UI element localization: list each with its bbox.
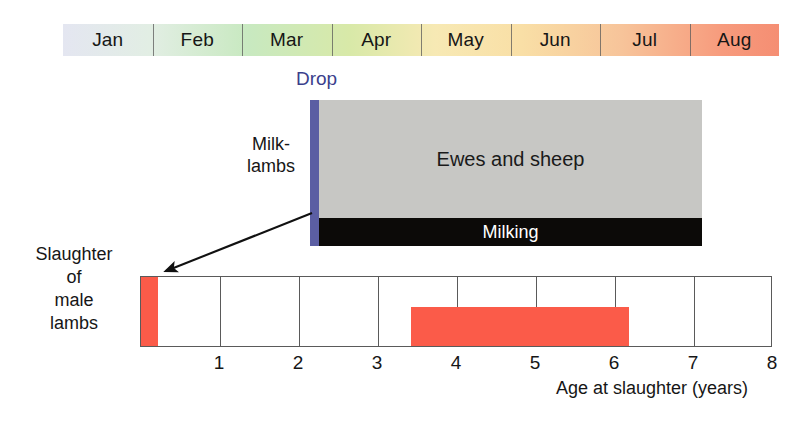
month-cell-jul: Jul bbox=[600, 24, 690, 56]
slaughter-label-line4: lambs bbox=[16, 312, 132, 335]
lifecycle-block-group: Ewes and sheep Milking bbox=[310, 100, 702, 246]
milk-lambs-label-line1: Milk- bbox=[238, 133, 304, 155]
x-tick-2: 2 bbox=[293, 352, 304, 374]
month-timeline-bar: Jan Feb Mar Apr May Jun Jul Aug bbox=[63, 24, 779, 56]
drop-label: Drop bbox=[296, 68, 337, 90]
month-label: Jul bbox=[632, 29, 657, 51]
ewes-and-sheep-block: Ewes and sheep bbox=[319, 100, 702, 218]
milking-block: Milking bbox=[319, 218, 702, 246]
x-tick-6: 6 bbox=[609, 352, 620, 374]
month-cell-feb: Feb bbox=[153, 24, 243, 56]
month-label: Feb bbox=[181, 29, 214, 51]
month-label: Apr bbox=[361, 29, 391, 51]
grid-line-1 bbox=[220, 277, 221, 346]
x-tick-8: 8 bbox=[767, 352, 778, 374]
x-tick-7: 7 bbox=[688, 352, 699, 374]
x-tick-4: 4 bbox=[451, 352, 462, 374]
month-label: Aug bbox=[717, 29, 751, 51]
grid-line-3 bbox=[378, 277, 379, 346]
month-cell-jan: Jan bbox=[63, 24, 153, 56]
slaughter-label-line3: male bbox=[16, 289, 132, 312]
month-cell-jun: Jun bbox=[511, 24, 601, 56]
x-axis-title: Age at slaughter (years) bbox=[556, 378, 748, 399]
slaughter-of-male-lambs-label: Slaughter of male lambs bbox=[16, 243, 132, 335]
month-cell-mar: Mar bbox=[242, 24, 332, 56]
slaughter-label-line1: Slaughter bbox=[16, 243, 132, 266]
age-at-slaughter-chart: 1 2 3 4 5 6 7 8 bbox=[140, 276, 772, 347]
x-tick-5: 5 bbox=[530, 352, 541, 374]
milk-lambs-label: Milk- lambs bbox=[238, 133, 304, 177]
connector-arrow-icon bbox=[150, 205, 325, 285]
month-label: May bbox=[448, 29, 485, 51]
ewes-and-sheep-label: Ewes and sheep bbox=[437, 148, 585, 171]
month-cell-aug: Aug bbox=[690, 24, 780, 56]
slaughter-label-line2: of bbox=[16, 266, 132, 289]
grid-line-2 bbox=[299, 277, 300, 346]
milking-label: Milking bbox=[482, 222, 538, 243]
milk-lambs-label-line2: lambs bbox=[238, 155, 304, 177]
month-cell-apr: Apr bbox=[332, 24, 422, 56]
month-label: Jun bbox=[540, 29, 571, 51]
month-cell-may: May bbox=[421, 24, 511, 56]
x-tick-3: 3 bbox=[372, 352, 383, 374]
bar-male-lambs bbox=[141, 277, 158, 346]
month-label: Jan bbox=[92, 29, 123, 51]
bar-ewes-and-sheep bbox=[411, 307, 629, 346]
grid-line-7 bbox=[694, 277, 695, 346]
month-label: Mar bbox=[270, 29, 303, 51]
x-tick-1: 1 bbox=[214, 352, 225, 374]
